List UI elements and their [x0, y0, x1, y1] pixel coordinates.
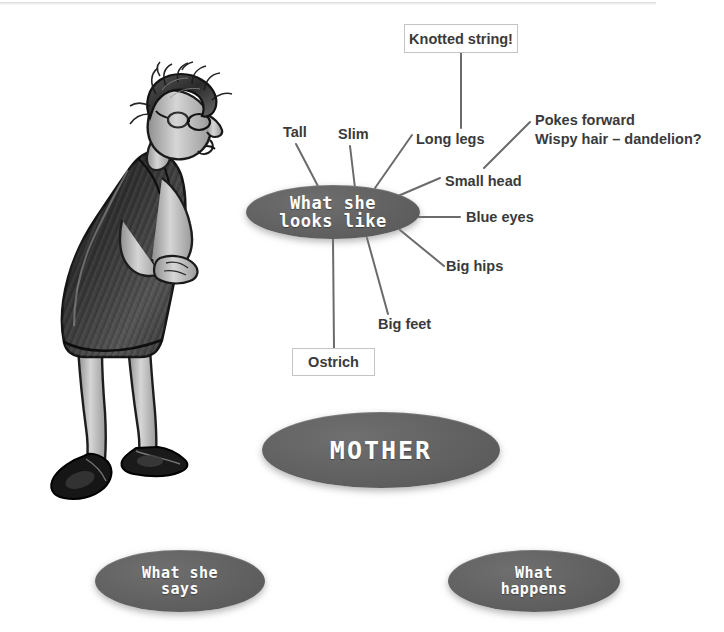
mindmap-page: What she looks like MOTHER What she says…: [0, 0, 724, 632]
leaf-small-head[interactable]: Small head: [445, 173, 522, 190]
leaf-pokes-forward[interactable]: Pokes forward: [535, 112, 635, 129]
leaf-long-legs[interactable]: Long legs: [416, 131, 484, 148]
node-what-happens[interactable]: What happens: [448, 550, 620, 612]
leaf-slim[interactable]: Slim: [338, 126, 369, 143]
leaf-tall[interactable]: Tall: [283, 124, 307, 141]
node-mother[interactable]: MOTHER: [262, 412, 500, 488]
top-divider-rule: [0, 2, 656, 5]
woman-leaning-forward-drawing: [10, 60, 240, 520]
node-what-she-says[interactable]: What she says: [95, 550, 265, 612]
leaf-big-hips[interactable]: Big hips: [446, 258, 503, 275]
leaf-knotted-string[interactable]: Knotted string!: [404, 24, 518, 53]
leaf-big-feet[interactable]: Big feet: [378, 316, 431, 333]
leaf-wispy-hair-dandelion[interactable]: Wispy hair – dandelion?: [535, 131, 702, 148]
leaf-ostrich[interactable]: Ostrich: [292, 348, 375, 376]
node-what-she-looks-like[interactable]: What she looks like: [246, 185, 420, 239]
leaf-blue-eyes[interactable]: Blue eyes: [466, 209, 534, 226]
